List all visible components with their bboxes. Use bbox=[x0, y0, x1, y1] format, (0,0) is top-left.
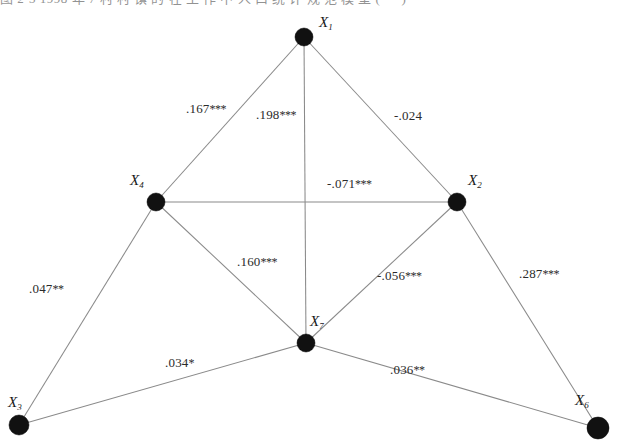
node-label-base: X bbox=[8, 394, 17, 410]
edge-coefficient: .047 bbox=[29, 281, 53, 296]
edge-significance-stars: *** bbox=[355, 177, 372, 191]
node-label-subscript: 3 bbox=[17, 402, 22, 412]
node-label-subscript: 6 bbox=[584, 400, 589, 410]
edge-label-x1-x4: .167*** bbox=[186, 101, 226, 117]
edge-coefficient: .160 bbox=[237, 254, 261, 269]
node-label-x1: X1 bbox=[319, 14, 333, 31]
edge-label-x1-x2: -.024 bbox=[394, 108, 422, 124]
edge-coefficient: .036 bbox=[390, 362, 414, 377]
edge-coefficient: -.024 bbox=[394, 108, 422, 123]
node-label-base: X bbox=[468, 172, 477, 188]
edge-label-x2-x7: -.056*** bbox=[377, 268, 422, 284]
nodes-layer bbox=[9, 28, 609, 439]
edge-significance-stars: ** bbox=[53, 282, 64, 296]
node-label-subscript: 4 bbox=[139, 180, 144, 190]
edge-significance-stars: * bbox=[189, 356, 195, 370]
edge-label-x7-x6: .036** bbox=[390, 362, 425, 378]
node-label-x4: X4 bbox=[130, 172, 144, 189]
path-diagram-figure: 图 2-3 1998 年 7 村 村 镇 的 在 工 作 中 人 口 统 计 规… bbox=[0, 0, 622, 443]
edge-significance-stars: *** bbox=[210, 102, 227, 116]
edge-significance-stars: *** bbox=[261, 255, 278, 269]
edge-label-x3-x7: .034* bbox=[165, 355, 194, 371]
node-label-base: X bbox=[130, 172, 139, 188]
edge-label-x2-x6: .287*** bbox=[519, 266, 559, 282]
node-label-x6: X6 bbox=[575, 392, 589, 409]
node-label-base: X bbox=[575, 392, 584, 408]
node-x4 bbox=[147, 193, 165, 211]
node-label-base: X bbox=[319, 14, 328, 30]
edge-significance-stars: *** bbox=[405, 269, 422, 283]
node-label-x3: X3 bbox=[8, 394, 22, 411]
edge-coefficient: .287 bbox=[519, 266, 543, 281]
node-label-subscript: 7 bbox=[319, 321, 324, 331]
node-label-base: X bbox=[310, 313, 319, 329]
edge-label-x4-x2: -.071*** bbox=[327, 176, 372, 192]
edge-significance-stars: *** bbox=[543, 267, 560, 281]
edge-coefficient: .034 bbox=[165, 355, 189, 370]
node-label-x7: X7 bbox=[310, 313, 324, 330]
edge-label-x1-x7: .198*** bbox=[256, 107, 296, 123]
path-diagram-canvas bbox=[0, 0, 622, 443]
edge-coefficient: .167 bbox=[186, 101, 210, 116]
edge-label-x4-x3: .047** bbox=[29, 281, 64, 297]
edge-coefficient: -.071 bbox=[327, 176, 355, 191]
edge-significance-stars: *** bbox=[280, 108, 297, 122]
node-x6 bbox=[587, 417, 609, 439]
node-x2 bbox=[448, 193, 466, 211]
edge-coefficient: -.056 bbox=[377, 268, 405, 283]
node-label-subscript: 2 bbox=[477, 180, 482, 190]
node-x3 bbox=[9, 415, 29, 435]
node-x1 bbox=[295, 28, 313, 46]
edge-x4-x7 bbox=[156, 202, 306, 343]
edge-x7-x6 bbox=[306, 343, 598, 428]
edge-label-x4-x7: .160*** bbox=[237, 254, 277, 270]
edges-layer bbox=[19, 37, 598, 428]
edge-significance-stars: ** bbox=[414, 363, 425, 377]
node-x7 bbox=[297, 334, 315, 352]
edge-x1-x7 bbox=[304, 37, 306, 343]
node-label-x2: X2 bbox=[468, 172, 482, 189]
node-label-subscript: 1 bbox=[328, 22, 333, 32]
edge-coefficient: .198 bbox=[256, 107, 280, 122]
